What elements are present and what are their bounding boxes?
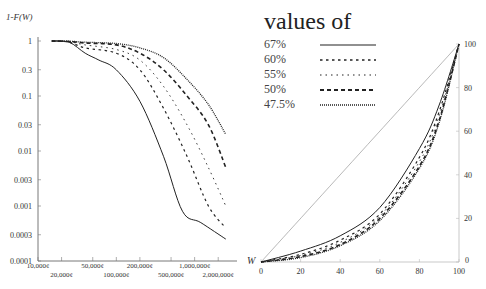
series-line	[52, 41, 226, 206]
y-tick-label: 100	[464, 40, 476, 49]
y-tick-label: 1	[28, 37, 32, 46]
y-axis-title: 1-F(W)	[6, 12, 33, 22]
x-tick-label: 200,000¢	[127, 262, 154, 270]
x-tick-label: 500,000¢	[158, 271, 185, 279]
series-line	[52, 41, 226, 228]
equality-line	[261, 44, 459, 262]
series-line	[52, 41, 226, 134]
y-tick-label: 0.003	[14, 176, 32, 185]
y-tick-label: 60	[464, 127, 472, 136]
chart-canvas: 1-F(W)W10.30.10.030.010.0030.0010.00030.…	[0, 0, 486, 289]
y-tick-label: 0.01	[18, 147, 32, 156]
x-tick-label: 20	[297, 267, 305, 276]
y-tick-label: 40	[464, 171, 472, 180]
x-tick-label: 10,000¢	[27, 262, 50, 270]
x-axis-title: W	[247, 255, 257, 266]
y-tick-label: 0.001	[14, 202, 32, 211]
x-tick-label: 100	[453, 267, 465, 276]
y-tick-label: 0.03	[18, 121, 32, 130]
x-tick-label: 2,000,000¢	[202, 271, 234, 279]
survival-chart: 1-F(W)W10.30.10.030.010.0030.0010.00030.…	[6, 12, 257, 279]
y-tick-label: 0.0003	[10, 231, 32, 240]
y-tick-label: 0.3	[22, 66, 32, 75]
y-tick-label: 0.1	[22, 92, 32, 101]
x-tick-label: 60	[376, 267, 384, 276]
x-tick-label: 80	[415, 267, 423, 276]
y-tick-label: 80	[464, 84, 472, 93]
x-tick-label: 40	[336, 267, 344, 276]
x-tick-label: 100,000¢	[103, 271, 130, 279]
y-tick-label: 0	[465, 256, 469, 265]
x-tick-label: 1,000,000¢	[179, 262, 211, 270]
y-tick-label: 20	[464, 214, 472, 223]
x-tick-label: 20,000¢	[50, 271, 73, 279]
x-tick-label: 50,000¢	[81, 262, 104, 270]
x-tick-label: 0	[259, 267, 263, 276]
lorenz-chart: 020406080100020406080100	[259, 40, 476, 276]
series-line	[52, 41, 226, 239]
